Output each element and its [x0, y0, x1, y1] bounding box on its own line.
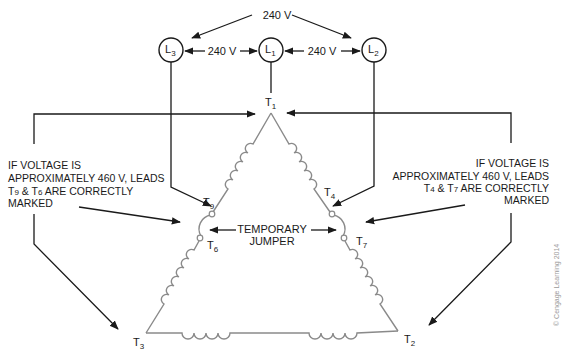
left-pointer-to-jumper — [79, 207, 180, 222]
copyright-credit: © Cengage Learning 2014 — [553, 244, 561, 326]
left-note-line1: IF VOLTAGE IS — [8, 159, 81, 171]
jumper-label-line1: TEMPORARY — [237, 223, 307, 235]
terminal-t7 — [341, 235, 347, 241]
terminal-t9 — [209, 211, 215, 217]
t2-label: T2 — [404, 333, 416, 348]
winding-t1-t4 — [271, 113, 330, 212]
line-l3: L3 — [159, 38, 183, 62]
jumper-label-line2: JUMPER — [249, 235, 294, 247]
right-note: IF VOLTAGE IS APPROXIMATELY 460 V, LEADS… — [287, 113, 549, 325]
line-l2: L2 — [362, 38, 386, 62]
terminal-t4 — [329, 211, 335, 217]
t6-label: T6 — [207, 239, 219, 254]
left-note-line4: MARKED — [8, 197, 53, 209]
t1-label: T1 — [265, 96, 277, 111]
winding-t3-t2 — [146, 331, 398, 339]
arrow-to-l3 — [192, 15, 252, 38]
right-note-line4: MARKED — [504, 194, 549, 206]
t9-label: T9 — [203, 196, 215, 211]
top-voltage-label: 240 V — [263, 9, 292, 21]
l2-to-t4-wire — [333, 62, 374, 206]
line-l1: L1 — [259, 38, 283, 62]
jumper-t9-t6 — [199, 215, 211, 236]
left-note: IF VOLTAGE IS APPROXIMATELY 460 V, LEADS… — [8, 114, 255, 329]
right-lead-to-t2 — [429, 213, 511, 325]
t4-label: T4 — [324, 186, 336, 201]
l3-l1-voltage-label: 240 V — [208, 45, 237, 57]
left-note-line3: T9 & T6 ARE CORRECTLY — [8, 185, 133, 197]
right-pointer-to-jumper — [366, 205, 465, 222]
right-note-line2: APPROXIMATELY 460 V, LEADS — [392, 170, 549, 182]
jumper-t4-t7 — [333, 215, 345, 236]
winding-t1-t9 — [213, 113, 271, 212]
left-lead-to-t1 — [34, 114, 255, 144]
right-note-line3: T4 & T7 ARE CORRECTLY — [424, 182, 549, 194]
t7-label: T7 — [356, 235, 368, 250]
winding-t7-t2 — [345, 241, 398, 331]
delta-motor-diagram: 240 V L3 L1 L2 240 V 240 V — [0, 0, 566, 356]
left-note-line2: APPROXIMATELY 460 V, LEADS — [8, 172, 165, 184]
right-lead-to-t1 — [287, 113, 511, 143]
left-lead-to-t3 — [34, 214, 118, 329]
arrow-to-l2 — [292, 15, 351, 38]
winding-t6-t3 — [146, 241, 199, 333]
l1-l2-voltage-label: 240 V — [308, 45, 337, 57]
l3-to-t9-wire — [171, 62, 211, 206]
t3-label: T3 — [133, 336, 145, 351]
terminal-t6 — [197, 235, 203, 241]
temporary-jumper-callout: TEMPORARY JUMPER — [210, 223, 336, 247]
right-note-line1: IF VOLTAGE IS — [476, 157, 549, 169]
